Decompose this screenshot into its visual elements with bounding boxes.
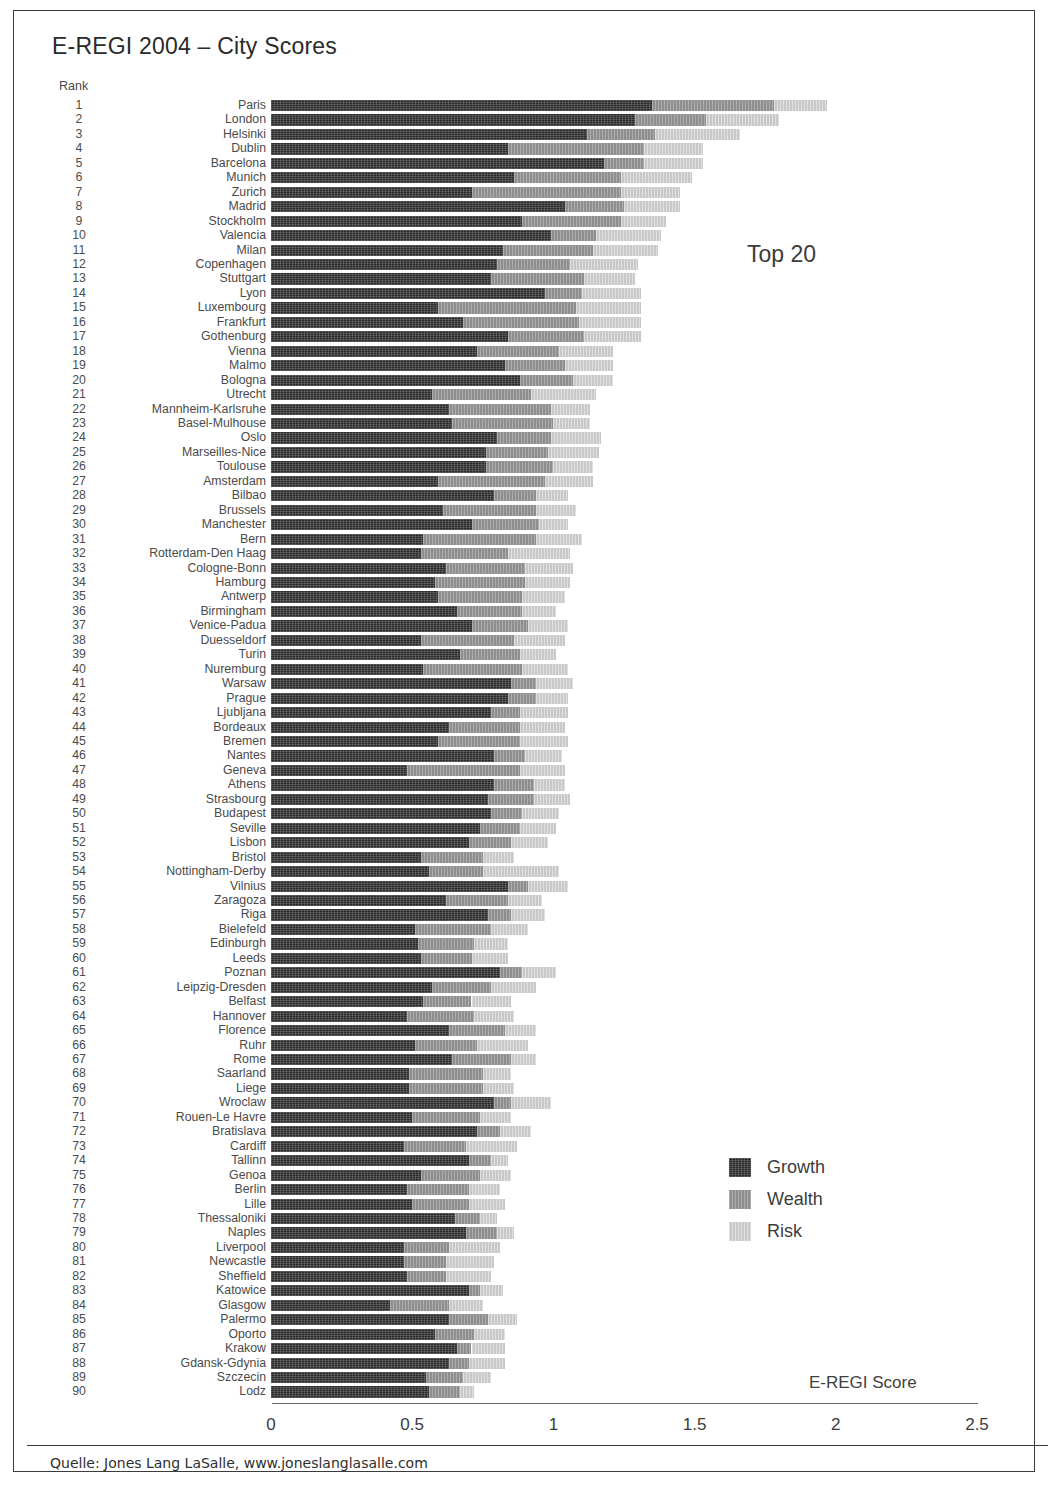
- stacked-bar[interactable]: [271, 1227, 514, 1238]
- stacked-bar[interactable]: [271, 736, 568, 747]
- stacked-bar[interactable]: [271, 1025, 536, 1036]
- stacked-bar[interactable]: [271, 548, 570, 559]
- stacked-bar[interactable]: [271, 591, 565, 602]
- stacked-bar[interactable]: [271, 302, 641, 313]
- stacked-bar[interactable]: [271, 938, 508, 949]
- stacked-bar[interactable]: [271, 201, 680, 212]
- stacked-bar[interactable]: [271, 577, 570, 588]
- stacked-bar[interactable]: [271, 245, 658, 256]
- chart-row: 63Belfast: [14, 995, 1014, 1009]
- stacked-bar[interactable]: [271, 1112, 511, 1123]
- stacked-bar[interactable]: [271, 273, 635, 284]
- stacked-bar[interactable]: [271, 794, 570, 805]
- bar-segment-risk: [584, 331, 640, 342]
- stacked-bar[interactable]: [271, 1126, 531, 1137]
- stacked-bar[interactable]: [271, 996, 511, 1007]
- stacked-bar[interactable]: [271, 823, 556, 834]
- stacked-bar[interactable]: [271, 447, 599, 458]
- bar-segment-risk: [522, 808, 559, 819]
- stacked-bar[interactable]: [271, 1170, 511, 1181]
- stacked-bar[interactable]: [271, 895, 542, 906]
- stacked-bar[interactable]: [271, 1343, 505, 1354]
- stacked-bar[interactable]: [271, 216, 666, 227]
- stacked-bar[interactable]: [271, 1054, 536, 1065]
- stacked-bar[interactable]: [271, 1386, 474, 1397]
- stacked-bar[interactable]: [271, 1155, 508, 1166]
- stacked-bar[interactable]: [271, 1083, 514, 1094]
- stacked-bar[interactable]: [271, 1040, 528, 1051]
- stacked-bar[interactable]: [271, 519, 568, 530]
- bar-segment-wealth: [404, 1242, 449, 1253]
- stacked-bar[interactable]: [271, 1199, 505, 1210]
- stacked-bar[interactable]: [271, 678, 573, 689]
- stacked-bar[interactable]: [271, 1141, 517, 1152]
- stacked-bar[interactable]: [271, 187, 680, 198]
- stacked-bar[interactable]: [271, 317, 641, 328]
- stacked-bar[interactable]: [271, 866, 559, 877]
- stacked-bar[interactable]: [271, 924, 528, 935]
- stacked-bar[interactable]: [271, 259, 638, 270]
- stacked-bar[interactable]: [271, 1271, 491, 1282]
- legend-item-growth[interactable]: Growth: [729, 1151, 825, 1183]
- legend-item-wealth[interactable]: Wealth: [729, 1183, 825, 1215]
- legend-item-risk[interactable]: Risk: [729, 1215, 825, 1247]
- stacked-bar[interactable]: [271, 852, 514, 863]
- stacked-bar[interactable]: [271, 1329, 505, 1340]
- stacked-bar[interactable]: [271, 490, 568, 501]
- stacked-bar[interactable]: [271, 1213, 497, 1224]
- stacked-bar[interactable]: [271, 1300, 483, 1311]
- stacked-bar[interactable]: [271, 1314, 517, 1325]
- bar-segment-growth: [271, 534, 423, 545]
- stacked-bar[interactable]: [271, 331, 641, 342]
- stacked-bar[interactable]: [271, 1184, 500, 1195]
- stacked-bar[interactable]: [271, 563, 573, 574]
- stacked-bar[interactable]: [271, 461, 593, 472]
- stacked-bar[interactable]: [271, 172, 692, 183]
- stacked-bar[interactable]: [271, 982, 536, 993]
- stacked-bar[interactable]: [271, 750, 562, 761]
- stacked-bar[interactable]: [271, 432, 601, 443]
- stacked-bar[interactable]: [271, 649, 556, 660]
- stacked-bar[interactable]: [271, 1097, 551, 1108]
- stacked-bar[interactable]: [271, 837, 548, 848]
- stacked-bar[interactable]: [271, 1011, 514, 1022]
- stacked-bar[interactable]: [271, 1285, 503, 1296]
- stacked-bar[interactable]: [271, 505, 576, 516]
- stacked-bar[interactable]: [271, 606, 556, 617]
- stacked-bar[interactable]: [271, 707, 568, 718]
- stacked-bar[interactable]: [271, 693, 568, 704]
- stacked-bar[interactable]: [271, 765, 565, 776]
- stacked-bar[interactable]: [271, 722, 565, 733]
- stacked-bar[interactable]: [271, 635, 565, 646]
- stacked-bar[interactable]: [271, 664, 568, 675]
- stacked-bar[interactable]: [271, 1068, 511, 1079]
- stacked-bar[interactable]: [271, 967, 556, 978]
- stacked-bar[interactable]: [271, 476, 593, 487]
- stacked-bar[interactable]: [271, 779, 565, 790]
- stacked-bar[interactable]: [271, 143, 703, 154]
- stacked-bar[interactable]: [271, 230, 661, 241]
- stacked-bar[interactable]: [271, 360, 613, 371]
- stacked-bar[interactable]: [271, 953, 508, 964]
- stacked-bar[interactable]: [271, 808, 559, 819]
- stacked-bar[interactable]: [271, 909, 545, 920]
- stacked-bar[interactable]: [271, 288, 641, 299]
- stacked-bar[interactable]: [271, 114, 779, 125]
- stacked-bar[interactable]: [271, 1242, 500, 1253]
- stacked-bar[interactable]: [271, 534, 582, 545]
- bar-segment-wealth: [494, 490, 536, 501]
- stacked-bar[interactable]: [271, 158, 703, 169]
- chart-row: 86Oporto: [14, 1328, 1014, 1342]
- stacked-bar[interactable]: [271, 389, 596, 400]
- stacked-bar[interactable]: [271, 346, 613, 357]
- stacked-bar[interactable]: [271, 881, 568, 892]
- stacked-bar[interactable]: [271, 404, 590, 415]
- stacked-bar[interactable]: [271, 375, 613, 386]
- stacked-bar[interactable]: [271, 100, 827, 111]
- stacked-bar[interactable]: [271, 1358, 505, 1369]
- stacked-bar[interactable]: [271, 1256, 494, 1267]
- stacked-bar[interactable]: [271, 1372, 491, 1383]
- stacked-bar[interactable]: [271, 418, 590, 429]
- stacked-bar[interactable]: [271, 620, 568, 631]
- stacked-bar[interactable]: [271, 129, 740, 140]
